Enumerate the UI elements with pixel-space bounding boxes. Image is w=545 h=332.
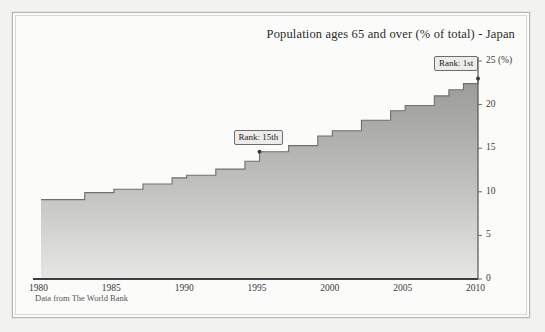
y-tick-label: 5 xyxy=(486,229,491,239)
x-tick-label: 1980 xyxy=(29,283,48,293)
y-tick-label: 10 xyxy=(486,186,496,196)
x-tick-label: 1995 xyxy=(248,283,267,293)
x-tick-label: 1990 xyxy=(175,283,194,293)
chart-card: Population ages 65 and over (% of total)… xyxy=(12,12,530,318)
area-chart-svg xyxy=(23,51,493,291)
data-point-marker[interactable] xyxy=(258,150,262,154)
plot-area: 0510152025 (%) 1980198519901995200020052… xyxy=(23,51,493,291)
data-point-marker[interactable] xyxy=(476,76,480,80)
screenshot-root: Population ages 65 and over (% of total)… xyxy=(0,0,545,332)
y-tick-label: 15 xyxy=(486,142,496,152)
x-tick-label: 1985 xyxy=(102,283,121,293)
chart-title: Population ages 65 and over (% of total)… xyxy=(267,27,515,42)
x-tick-label: 2010 xyxy=(466,283,485,293)
rank-15th-callout[interactable]: Rank: 15th xyxy=(234,130,284,145)
y-tick-label: 20 xyxy=(486,99,496,109)
series-area xyxy=(41,78,478,279)
rank-1st-callout[interactable]: Rank: 1st xyxy=(434,56,478,71)
x-tick-label: 2005 xyxy=(393,283,412,293)
data-source-note: Data from The World Bank xyxy=(35,293,128,303)
y-tick-label: 0 xyxy=(486,273,491,283)
y-tick-label: 25 (%) xyxy=(486,55,512,65)
x-tick-label: 2000 xyxy=(320,283,339,293)
